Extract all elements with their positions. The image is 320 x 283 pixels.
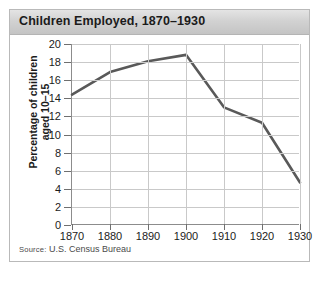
gridline-vertical — [148, 44, 149, 224]
y-axis-tick — [64, 44, 71, 45]
y-axis-tick — [64, 189, 71, 190]
x-axis-tick-label: 1870 — [60, 230, 84, 242]
x-axis-tick-label: 1910 — [212, 230, 236, 242]
x-axis-tick-label: 1880 — [98, 230, 122, 242]
gridline-vertical — [186, 44, 187, 224]
y-axis-label-line1: Percentage of children — [27, 32, 39, 192]
source-note: Source: U.S. Census Bureau — [19, 244, 131, 254]
y-axis-tick — [64, 153, 71, 154]
y-axis-tick-label: 10 — [49, 129, 61, 141]
y-axis-tick — [64, 171, 71, 172]
plot-body: Percentage of children aged 10–15 024681… — [10, 36, 309, 236]
y-axis-tick-label: 12 — [49, 110, 61, 122]
y-axis-tick-label: 4 — [55, 183, 61, 195]
x-axis-tick-label: 1920 — [250, 230, 274, 242]
figure-card: Children Employed, 1870–1930 Percentage … — [9, 9, 310, 262]
y-axis-tick — [64, 135, 71, 136]
y-axis-tick-label: 14 — [49, 92, 61, 104]
y-axis-tick — [64, 116, 71, 117]
page-title: Children Employed, 1870–1930 — [19, 14, 205, 28]
source-label: Source: — [19, 245, 47, 254]
caption-strip — [0, 268, 320, 283]
plot-area: 0246810121416182018701880189019001910192… — [71, 44, 299, 225]
y-axis-tick — [64, 80, 71, 81]
y-axis-tick — [64, 62, 71, 63]
y-axis-tick-label: 2 — [55, 201, 61, 213]
gridline-vertical — [224, 44, 225, 224]
y-axis-tick-label: 16 — [49, 74, 61, 86]
y-axis-tick — [64, 207, 71, 208]
y-axis-tick — [64, 225, 71, 226]
x-axis-tick-label: 1890 — [136, 230, 160, 242]
y-axis-tick — [64, 98, 71, 99]
gridline-vertical — [300, 44, 301, 224]
figure-title-band: Children Employed, 1870–1930 — [10, 10, 309, 35]
x-axis-tick-label: 1900 — [174, 230, 198, 242]
source-value: U.S. Census Bureau — [47, 244, 132, 254]
y-axis-tick-label: 6 — [55, 165, 61, 177]
y-axis-tick-label: 20 — [49, 38, 61, 50]
gridline-vertical — [262, 44, 263, 224]
y-axis-tick-label: 18 — [49, 56, 61, 68]
y-axis-tick-label: 8 — [55, 147, 61, 159]
gridline-vertical — [110, 44, 111, 224]
y-axis-label: Percentage of children aged 10–15 — [27, 32, 51, 192]
x-axis-tick-label: 1930 — [288, 230, 312, 242]
